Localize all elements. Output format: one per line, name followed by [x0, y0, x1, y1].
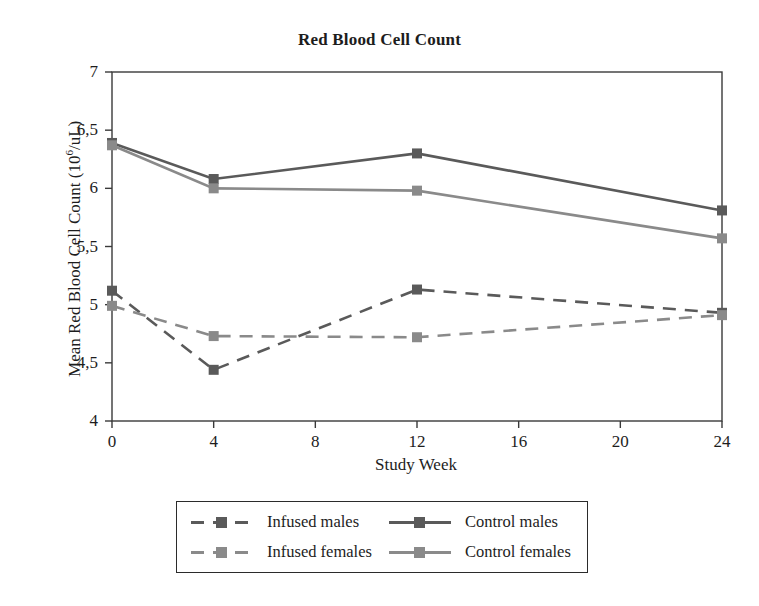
legend-key-icon [389, 515, 451, 529]
data-point-2 [412, 186, 422, 196]
legend: Infused malesControl malesInfused female… [176, 501, 588, 573]
series-infused-males [107, 285, 727, 375]
series-control-males [107, 138, 727, 215]
legend-item-control-males[interactable]: Control males [389, 509, 558, 535]
legend-marker [414, 547, 425, 558]
chart-page: Red Blood Cell Count Mean Red Blood Cell… [0, 0, 759, 606]
legend-item-control-females[interactable]: Control females [389, 539, 571, 565]
legend-key-icon [191, 515, 253, 529]
data-point-1 [209, 331, 219, 341]
data-point-1 [209, 183, 219, 193]
data-point-0 [107, 301, 117, 311]
series-group [107, 138, 727, 375]
data-point-0 [107, 286, 117, 296]
legend-label: Control males [465, 512, 558, 532]
series-line [112, 290, 722, 370]
legend-item-infused-males[interactable]: Infused males [191, 509, 359, 535]
data-point-0 [107, 140, 117, 150]
series-infused-females [107, 301, 727, 342]
data-point-3 [717, 205, 727, 215]
legend-marker [414, 517, 425, 528]
legend-marker [216, 547, 227, 558]
data-point-1 [209, 174, 219, 184]
data-point-3 [717, 233, 727, 243]
legend-item-infused-females[interactable]: Infused females [191, 539, 372, 565]
legend-marker [216, 517, 227, 528]
plot-frame [112, 72, 722, 421]
data-point-1 [209, 365, 219, 375]
data-point-2 [412, 285, 422, 295]
legend-label: Infused males [267, 512, 359, 532]
legend-label: Infused females [267, 542, 372, 562]
legend-key-icon [389, 545, 451, 559]
legend-key-icon [191, 545, 253, 559]
data-point-3 [717, 310, 727, 320]
data-point-2 [412, 332, 422, 342]
axes-group [105, 72, 722, 428]
data-point-2 [412, 148, 422, 158]
legend-label: Control females [465, 542, 571, 562]
